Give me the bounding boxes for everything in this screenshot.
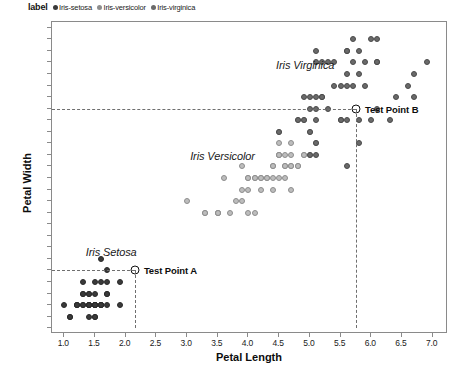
data-point [239,198,245,204]
data-point [104,279,110,285]
data-point [301,117,307,123]
x-tick-label: 1.5 [88,338,99,348]
x-tick-label: 4.0 [242,338,253,348]
x-tick-label: 5.0 [303,338,314,348]
data-point [270,163,276,169]
x-tick-label: 2.5 [150,338,161,348]
data-point [98,302,104,308]
data-point [307,129,313,135]
data-point [350,83,356,89]
data-point [258,187,264,193]
data-point [239,163,245,169]
data-point [368,36,374,42]
data-point [202,210,208,216]
x-tick-mark [125,333,126,337]
x-tick-mark [186,333,187,337]
x-axis-title: Petal Length [51,351,447,363]
data-point [227,210,233,216]
data-point [80,302,86,308]
data-point [295,163,301,169]
legend-entry-iris-setosa[interactable]: Iris-setosa [53,3,92,12]
legend-label: Iris-versicolor [103,3,145,12]
data-point [282,152,288,158]
x-tick-mark [63,333,64,337]
data-point [245,187,251,193]
data-point [344,163,350,169]
data-point [356,71,362,77]
data-point [301,152,307,158]
data-point [362,83,368,89]
cluster-setosa-label: Iris Setosa [86,246,137,258]
data-point [282,175,288,181]
x-tick-label: 6.0 [365,338,376,348]
data-point [67,314,73,320]
data-point [86,314,92,320]
x-tick-label: 3.5 [211,338,222,348]
x-tick-label: 1.0 [58,338,69,348]
x-tick-mark [401,333,402,337]
legend-entry-iris-versicolor[interactable]: Iris-versicolor [97,3,146,12]
data-point [411,71,417,77]
x-tick-mark [340,333,341,337]
horizontal-guide-line [52,270,135,271]
data-point [331,83,337,89]
data-point [276,175,282,181]
data-point [92,314,98,320]
cluster-versicolor-label: Iris Versicolor [190,150,255,162]
data-point [270,187,276,193]
data-point [313,140,319,146]
legend-entry-iris-virginica[interactable]: Iris-virginica [151,3,195,12]
data-point [424,59,430,65]
plot-canvas: Test Point ATest Point BIris SetosaIris … [52,22,446,332]
legend-label: Iris-virginica [157,3,195,12]
data-point [405,83,411,89]
legend-title: label [28,2,48,12]
data-point [258,175,264,181]
x-tick-label: 4.5 [273,338,284,348]
vertical-guide-line [135,270,136,328]
data-point [92,291,98,297]
x-tick-mark [432,333,433,337]
test-point-label-b: Test Point B [365,103,419,114]
data-point [301,94,307,100]
data-point [288,140,294,146]
data-point [104,291,110,297]
x-tick-mark [370,333,371,337]
data-point [288,187,294,193]
x-tick-mark [155,333,156,337]
data-point [288,163,294,169]
data-point [338,83,344,89]
legend-marker-icon [151,5,156,10]
data-point [61,302,67,308]
legend: label Iris-setosa Iris-versicolor Iris-v… [28,2,197,12]
test-point-marker-a[interactable] [130,266,139,275]
data-point [374,36,380,42]
data-point [344,117,350,123]
data-point [282,163,288,169]
data-point [80,291,86,297]
x-tick-label: 3.0 [180,338,191,348]
data-point [74,302,80,308]
data-point [276,152,282,158]
cluster-virginica-label: Iris Virginica [276,59,334,71]
data-point [344,83,350,89]
x-tick-label: 6.5 [395,338,406,348]
legend-label: Iris-setosa [59,3,92,12]
data-point [86,302,92,308]
data-point [117,302,123,308]
horizontal-guide-line [52,109,356,110]
x-tick-mark [94,333,95,337]
data-point [104,302,110,308]
data-point [98,279,104,285]
y-axis-title: Petal Width [21,128,33,238]
data-point [80,279,86,285]
data-point [307,152,313,158]
data-point [362,59,368,65]
test-point-marker-b[interactable] [351,104,360,113]
data-point [350,59,356,65]
data-point [307,94,313,100]
data-point [344,48,350,54]
test-point-label-a: Test Point A [144,265,197,276]
x-tick-mark [217,333,218,337]
data-point [313,152,319,158]
